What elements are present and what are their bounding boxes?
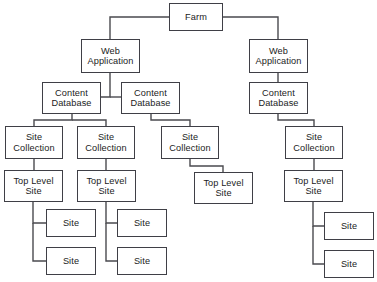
node-site4a[interactable]: Site [324, 212, 374, 240]
node-tls1[interactable]: Top Level Site [4, 170, 63, 202]
node-tls4[interactable]: Top Level Site [284, 170, 343, 202]
connector-cdb3-to-sc4 [278, 114, 314, 126]
node-cdb3[interactable]: Content Database [249, 82, 308, 114]
node-label: Site [118, 256, 166, 266]
node-label: Top Level Site [285, 176, 342, 197]
node-label: Site [325, 221, 373, 231]
node-cdb1[interactable]: Content Database [42, 82, 101, 114]
node-label: Site Collection [286, 132, 342, 153]
node-sc3[interactable]: Site Collection [161, 126, 219, 159]
node-site4b[interactable]: Site [324, 250, 374, 278]
node-label: Site Collection [6, 132, 62, 153]
node-site2b[interactable]: Site [117, 247, 167, 275]
node-label: Site [118, 218, 166, 228]
node-sc2[interactable]: Site Collection [77, 126, 135, 159]
node-label: Site Collection [162, 132, 218, 153]
diagram-canvas: FarmWeb ApplicationWeb ApplicationConten… [0, 0, 377, 282]
connector-tls4-to-site4a [313, 202, 324, 226]
node-site2a[interactable]: Site [117, 209, 167, 237]
connector-cdb2-to-sc3 [151, 114, 190, 126]
connector-tls1-to-site1b [33, 223, 46, 261]
node-label: Farm [170, 12, 222, 22]
node-cdb2[interactable]: Content Database [121, 82, 180, 114]
node-label: Site [47, 256, 95, 266]
node-tls2[interactable]: Top Level Site [77, 170, 136, 202]
node-label: Top Level Site [195, 178, 252, 199]
node-tls3[interactable]: Top Level Site [194, 172, 253, 204]
connector-wa1-to-cdb1 [101, 73, 110, 97]
node-label: Site Collection [78, 132, 134, 153]
node-label: Top Level Site [5, 176, 62, 197]
node-sc4[interactable]: Site Collection [285, 126, 343, 159]
node-label: Top Level Site [78, 176, 135, 197]
connector-tls2-to-site2a [106, 202, 117, 223]
node-wa1[interactable]: Web Application [81, 39, 140, 73]
node-label: Content Database [43, 88, 100, 109]
connector-tls2-to-site2b [106, 223, 117, 261]
node-label: Web Application [250, 46, 307, 67]
connector-cdb1-to-sc1 [34, 114, 72, 126]
node-label: Content Database [250, 88, 307, 109]
node-wa2[interactable]: Web Application [249, 39, 308, 73]
connector-tls4-to-site4b [313, 226, 324, 264]
node-farm[interactable]: Farm [169, 3, 223, 31]
node-site1b[interactable]: Site [46, 247, 96, 275]
connector-farm-to-wa1 [110, 17, 169, 39]
connector-sc3-to-tls3 [190, 159, 223, 172]
node-label: Content Database [122, 88, 179, 109]
node-sc1[interactable]: Site Collection [5, 126, 63, 159]
node-label: Web Application [82, 46, 139, 67]
node-site1a[interactable]: Site [46, 209, 96, 237]
connector-tls1-to-site1a [33, 202, 46, 223]
node-label: Site [325, 259, 373, 269]
connector-farm-to-wa2 [223, 17, 278, 39]
node-label: Site [47, 218, 95, 228]
